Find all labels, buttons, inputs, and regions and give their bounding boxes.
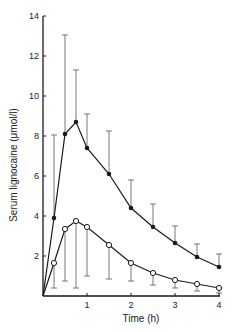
open-circle-marker bbox=[84, 224, 89, 229]
y-tick-label: 6 bbox=[34, 171, 39, 181]
x-tick-label: 4 bbox=[216, 300, 221, 310]
filled-circle-marker bbox=[74, 120, 79, 125]
y-tick-label: 2 bbox=[34, 251, 39, 261]
y-axis-title: Serum lignocaine (μmol/l) bbox=[8, 108, 19, 222]
filled-circle-marker bbox=[195, 255, 200, 260]
filled-circle-marker bbox=[52, 216, 57, 221]
pharmacokinetic-chart: 24681012141234 Time (h) Serum lignocaine… bbox=[0, 0, 236, 332]
y-tick-label: 8 bbox=[34, 131, 39, 141]
open-circle-marker bbox=[194, 281, 199, 286]
series-line bbox=[43, 221, 219, 296]
open-circle-marker bbox=[128, 260, 133, 265]
open-circle-marker bbox=[62, 226, 67, 231]
open-circle-marker bbox=[172, 277, 177, 282]
x-tick-label: 3 bbox=[172, 300, 177, 310]
error-bars bbox=[51, 35, 222, 293]
filled-circle-marker bbox=[107, 172, 112, 177]
x-tick-label: 1 bbox=[84, 300, 89, 310]
filled-circle-marker bbox=[85, 146, 90, 151]
filled-circle-marker bbox=[151, 225, 156, 230]
y-tick-label: 10 bbox=[29, 91, 39, 101]
y-tick-label: 12 bbox=[29, 51, 39, 61]
open-circle-marker bbox=[51, 260, 56, 265]
filled-circle-marker bbox=[217, 265, 222, 270]
open-circle-marker bbox=[150, 270, 155, 275]
x-axis-title: Time (h) bbox=[123, 313, 160, 324]
x-tick-label: 2 bbox=[128, 300, 133, 310]
filled-circle-marker bbox=[129, 206, 134, 211]
open-circle-marker bbox=[106, 242, 111, 247]
open-circle-marker bbox=[73, 218, 78, 223]
y-tick-label: 4 bbox=[34, 211, 39, 221]
open-circle-marker bbox=[216, 285, 221, 290]
axes: 24681012141234 bbox=[29, 11, 222, 310]
filled-circle-marker bbox=[173, 241, 178, 246]
filled-circle-marker bbox=[63, 132, 68, 137]
y-tick-label: 14 bbox=[29, 11, 39, 21]
